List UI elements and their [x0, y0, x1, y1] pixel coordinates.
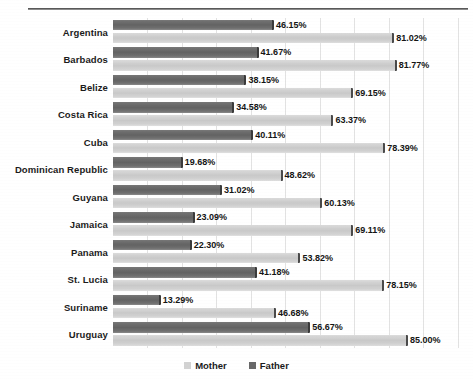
bar-mother: 46.68%	[113, 308, 276, 319]
bar-value-label: 40.11%	[255, 130, 285, 140]
bar-value-label: 46.15%	[276, 20, 307, 30]
bar-father: 23.09%	[113, 212, 195, 223]
bar-value-label: 85.00%	[410, 335, 441, 345]
bar-value-label: 48.62%	[285, 170, 316, 180]
bar-mother: 69.11%	[113, 225, 353, 236]
bar-group: Uruguay56.67%85.00%	[113, 321, 468, 349]
category-label: Suriname	[64, 301, 108, 312]
category-label: Uruguay	[69, 329, 108, 340]
category-label: Barbados	[63, 54, 108, 65]
bar-value-label: 46.68%	[278, 308, 309, 318]
bar-value-label: 38.15%	[248, 75, 279, 85]
bar-father: 19.68%	[113, 157, 183, 168]
category-label: Costa Rica	[58, 109, 108, 120]
bar-mother: 78.39%	[113, 143, 385, 154]
bar-chart: Argentina46.15%81.02%Barbados41.67%81.77…	[0, 0, 473, 380]
bar-value-label: 63.37%	[335, 115, 366, 125]
bar-father: 31.02%	[113, 185, 222, 196]
category-label: Guyana	[73, 191, 108, 202]
bar-mother: 48.62%	[113, 170, 283, 181]
bar-mother: 81.02%	[113, 33, 394, 44]
bar-father: 56.67%	[113, 322, 310, 333]
bar-father: 41.18%	[113, 267, 257, 278]
bar-father: 46.15%	[113, 20, 274, 31]
category-label: Jamaica	[70, 219, 108, 230]
category-label: Dominican Republic	[15, 164, 108, 175]
category-label: Panama	[71, 246, 108, 257]
bar-value-label: 53.82%	[302, 253, 333, 263]
legend-label: Mother	[195, 360, 227, 371]
bar-value-label: 78.15%	[386, 280, 417, 290]
bar-value-label: 23.09%	[197, 212, 228, 222]
bar-father: 13.29%	[113, 295, 161, 306]
bar-group: Jamaica23.09%69.11%	[113, 211, 468, 239]
bar-group: Belize38.15%69.15%	[113, 73, 468, 101]
bar-value-label: 31.02%	[224, 185, 255, 195]
bar-value-label: 34.58%	[236, 102, 267, 112]
bar-father: 22.30%	[113, 240, 192, 251]
bar-mother: 69.15%	[113, 88, 353, 99]
top-divider-rule	[28, 8, 468, 10]
bar-mother: 81.77%	[113, 60, 397, 71]
bar-value-label: 56.67%	[312, 322, 343, 332]
bar-father: 41.67%	[113, 47, 259, 58]
category-label: Belize	[80, 81, 108, 92]
bar-value-label: 81.02%	[396, 33, 427, 43]
bar-value-label: 78.39%	[387, 143, 418, 153]
bar-group: Costa Rica34.58%63.37%	[113, 101, 468, 129]
bar-mother: 60.13%	[113, 198, 322, 209]
legend-item-father: Father	[249, 360, 289, 371]
bar-value-label: 60.13%	[324, 198, 355, 208]
legend-label: Father	[260, 360, 289, 371]
bar-value-label: 13.29%	[163, 295, 194, 305]
bar-value-label: 22.30%	[194, 240, 225, 250]
category-label: Cuba	[84, 136, 108, 147]
bar-value-label: 19.68%	[185, 157, 216, 167]
bar-value-label: 81.77%	[399, 60, 430, 70]
bar-group: St. Lucia41.18%78.15%	[113, 266, 468, 294]
category-label: St. Lucia	[68, 274, 109, 285]
bar-group: Suriname13.29%46.68%	[113, 293, 468, 321]
bar-value-label: 41.67%	[261, 47, 292, 57]
bar-mother: 53.82%	[113, 253, 300, 264]
bar-rows: Argentina46.15%81.02%Barbados41.67%81.77…	[113, 18, 468, 348]
legend-swatch-mother	[184, 362, 191, 369]
bar-value-label: 69.15%	[355, 88, 386, 98]
bar-group: Guyana31.02%60.13%	[113, 183, 468, 211]
bar-father: 38.15%	[113, 75, 246, 86]
bar-value-label: 69.11%	[355, 225, 385, 235]
bar-group: Dominican Republic19.68%48.62%	[113, 156, 468, 184]
legend-item-mother: Mother	[184, 360, 227, 371]
bar-mother: 78.15%	[113, 280, 384, 291]
bar-father: 34.58%	[113, 102, 234, 113]
plot-area: Argentina46.15%81.02%Barbados41.67%81.77…	[113, 18, 468, 348]
bar-mother: 63.37%	[113, 115, 333, 126]
bar-group: Barbados41.67%81.77%	[113, 46, 468, 74]
bar-mother: 85.00%	[113, 335, 408, 346]
bar-value-label: 41.18%	[259, 267, 290, 277]
bar-group: Cuba40.11%78.39%	[113, 128, 468, 156]
legend-swatch-father	[249, 362, 256, 369]
bar-group: Panama22.30%53.82%	[113, 238, 468, 266]
bar-group: Argentina46.15%81.02%	[113, 18, 468, 46]
bar-father: 40.11%	[113, 130, 253, 141]
category-label: Argentina	[63, 26, 108, 37]
chart-legend: MotherFather	[0, 360, 473, 371]
